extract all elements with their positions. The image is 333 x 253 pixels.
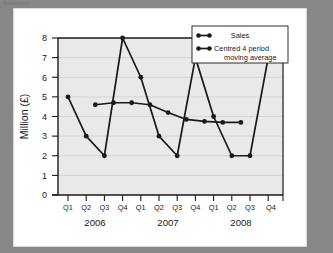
sales-point [138,75,143,80]
moving-average-point [111,100,116,105]
legend-ma-marker-right-icon [207,46,212,51]
sales-point [102,153,107,158]
legend-sales-marker-left-icon [196,33,201,38]
moving-average-point [239,120,244,125]
x-tick-q-1: Q2 [81,203,91,212]
moving-average-point [220,120,225,125]
moving-average-point [166,110,171,115]
moving-average-point [129,100,134,105]
sales-point [211,114,216,119]
x-tick-q-11: Q4 [266,203,276,212]
sales-point [229,153,234,158]
x-year-2006: 2006 [84,217,105,228]
sales-point [157,134,162,139]
y-axis-label: Million (£) [18,94,30,140]
moving-average-point [184,117,189,122]
y-tick-6: 6 [42,73,47,83]
y-tick-0: 0 [42,190,47,200]
y-tick-marks [52,38,58,195]
y-tick-4: 4 [42,112,47,122]
y-tick-1: 1 [42,171,47,181]
top-caption: Solution [3,0,29,7]
y-tick-3: 3 [42,131,47,141]
sales-point [66,94,71,99]
legend: Sales Centred 4 period moving average [192,26,288,63]
sales-moving-average-chart: 0 1 2 3 4 5 6 7 8 Million (£) [14,9,306,246]
legend-sales-marker-right-icon [207,33,212,38]
y-tick-8: 8 [42,33,47,43]
chart-area: 0 1 2 3 4 5 6 7 8 Million (£) [14,9,306,246]
x-tick-q-5: Q2 [154,203,164,212]
legend-label-sales: Sales [231,31,250,40]
y-tick-7: 7 [42,53,47,63]
x-tick-q-8: Q1 [209,203,219,212]
x-year-2007: 2007 [157,217,178,228]
moving-average-point [148,102,153,107]
y-tick-5: 5 [42,92,47,102]
x-tick-q-3: Q4 [118,203,128,212]
x-tick-q-9: Q2 [227,203,237,212]
y-tick-2: 2 [42,151,47,161]
legend-ma-marker-left-icon [196,46,201,51]
x-tick-marks [68,195,283,201]
x-tick-q-10: Q3 [245,203,255,212]
sales-point [175,153,180,158]
x-tick-q-0: Q1 [63,203,73,212]
moving-average-point [202,119,207,124]
x-year-2008: 2008 [230,217,251,228]
sales-point [84,134,89,139]
legend-label-moving-average-2: moving average [224,53,277,62]
x-tick-q-7: Q4 [190,203,200,212]
moving-average-point [93,102,98,107]
x-tick-q-2: Q3 [99,203,109,212]
sales-point [248,153,253,158]
sales-point [120,36,125,41]
x-tick-q-6: Q3 [172,203,182,212]
chart-card: 0 1 2 3 4 5 6 7 8 Million (£) [14,9,306,246]
x-tick-q-4: Q1 [136,203,146,212]
legend-label-moving-average: Centred 4 period [214,44,269,53]
